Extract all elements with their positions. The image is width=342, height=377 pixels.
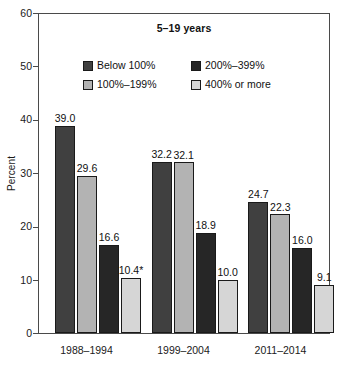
y-tick-label-30: 30 — [8, 168, 32, 179]
bar-slot: 16.6 — [99, 14, 119, 333]
y-tick-label-10: 10 — [8, 275, 32, 286]
bar-slot: 32.1 — [174, 14, 194, 333]
y-tick-label-40: 40 — [8, 114, 32, 125]
bar-slot: 9.1 — [314, 14, 334, 333]
bar-group: 39.029.616.610.4* — [39, 14, 136, 333]
plot-frame: 5–19 years Below 100% 200%–399% 100%–199… — [38, 13, 330, 334]
bar[interactable] — [55, 126, 75, 333]
bar[interactable] — [270, 214, 290, 333]
bar-slot: 39.0 — [55, 14, 75, 333]
bar-slot: 18.9 — [196, 14, 216, 333]
x-tick-label-1999-2004: 1999–2004 — [135, 344, 232, 356]
bar-group: 24.722.316.09.1 — [232, 14, 329, 333]
bar-value-label: 9.1 — [317, 272, 332, 283]
bar[interactable] — [196, 233, 216, 333]
y-tick-label-20: 20 — [8, 221, 32, 232]
bar-value-label: 16.6 — [99, 232, 119, 243]
x-tick-label-2011-2014: 2011–2014 — [232, 344, 329, 356]
y-tick-label-0: 0 — [8, 328, 32, 339]
bar-slot: 22.3 — [270, 14, 290, 333]
bar-value-label: 16.0 — [292, 235, 312, 246]
bar-value-label: 32.2 — [151, 149, 171, 160]
x-tick-label-1988-1994: 1988–1994 — [38, 344, 135, 356]
bar-chart: Percent 60 50 40 30 20 10 0 5–19 years B… — [0, 0, 342, 377]
bar-value-label: 18.9 — [195, 220, 215, 231]
bar-value-label: 39.0 — [55, 113, 75, 124]
bar-group: 32.232.118.910.0 — [136, 14, 233, 333]
y-axis-ticks: 60 50 40 30 20 10 0 — [6, 0, 32, 377]
bar-value-label: 29.6 — [77, 163, 97, 174]
bar[interactable] — [99, 245, 119, 333]
bar[interactable] — [314, 285, 334, 333]
y-tick-label-60: 60 — [8, 8, 32, 19]
y-tick-label-50: 50 — [8, 61, 32, 72]
plot-area: 39.029.616.610.4*32.232.118.910.024.722.… — [39, 14, 329, 333]
bar-slot: 16.0 — [292, 14, 312, 333]
bar[interactable] — [174, 162, 194, 333]
bar-value-label: 24.7 — [248, 189, 268, 200]
bar-slot: 29.6 — [77, 14, 97, 333]
bar[interactable] — [248, 202, 268, 333]
bar-slot: 24.7 — [248, 14, 268, 333]
bar-value-label: 32.1 — [173, 150, 193, 161]
bar[interactable] — [152, 162, 172, 333]
bar[interactable] — [77, 176, 97, 333]
bar-slot: 32.2 — [152, 14, 172, 333]
bar[interactable] — [292, 248, 312, 333]
bar-value-label: 22.3 — [270, 202, 290, 213]
